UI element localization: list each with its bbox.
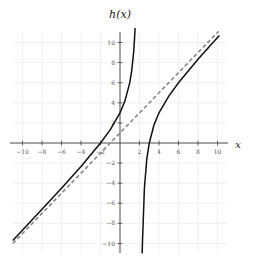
x-tick-label: 8 <box>196 148 200 155</box>
x-tick-label: 4 <box>157 148 161 155</box>
y-tick-label: −2 <box>106 159 115 166</box>
chart-title: h(x) <box>109 8 131 21</box>
y-tick-label: 10 <box>107 39 115 46</box>
x-tick-label: 10 <box>214 148 222 155</box>
y-tick-label: −10 <box>102 240 115 247</box>
y-tick-label: 8 <box>111 59 115 66</box>
x-axis-label: x <box>235 139 241 150</box>
x-tick-label: 2 <box>138 148 142 155</box>
y-tick-label: −8 <box>106 219 115 226</box>
chart-canvas: −10−8−6−4−2246810−10−8−6−4−2246810 h(x) … <box>0 0 254 263</box>
y-tick-label: 4 <box>111 99 115 106</box>
x-tick-label: −8 <box>38 148 47 155</box>
x-tick-label: 6 <box>177 148 181 155</box>
oblique-asymptote-line <box>13 31 219 243</box>
y-tick-label: 6 <box>111 79 115 86</box>
curve-left-branch <box>13 28 135 240</box>
x-tick-label: −10 <box>16 148 29 155</box>
axes <box>10 32 228 253</box>
curve-right-branch <box>142 35 219 253</box>
y-tick-label: −6 <box>106 199 115 206</box>
x-tick-label: −6 <box>57 148 66 155</box>
y-tick-label: −4 <box>106 179 115 186</box>
tick-labels: −10−8−6−4−2246810−10−8−6−4−2246810 <box>16 39 221 247</box>
x-tick-label: −4 <box>77 148 86 155</box>
